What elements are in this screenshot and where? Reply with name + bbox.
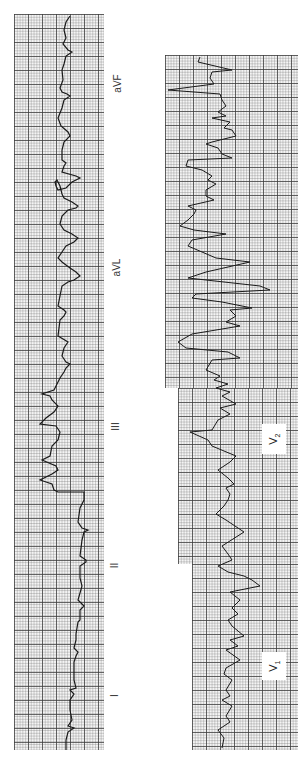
lead-label-v2: V2	[267, 433, 281, 444]
lead-label-v1: V1	[267, 660, 281, 671]
lead-label-ii: II	[109, 563, 120, 569]
lead-label-iii: III	[110, 422, 121, 430]
lead-label-i: I	[109, 694, 120, 697]
lead-label-avf: aVF	[112, 74, 123, 92]
ecg-trace	[0, 0, 300, 768]
lead-label-v1-box: V1	[262, 652, 286, 680]
lead-label-avl: aVL	[111, 259, 122, 277]
lead-label-v2-box: V2	[262, 424, 286, 454]
